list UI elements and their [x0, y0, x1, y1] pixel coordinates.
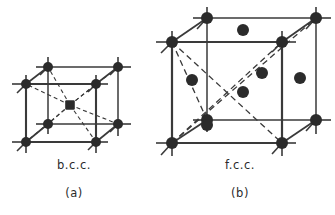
panel-label-a: (a) — [0, 186, 148, 200]
bcc-atom-corner — [43, 119, 53, 129]
bcc-atom-corner — [113, 62, 123, 72]
bcc-atom-corner — [91, 137, 101, 147]
fcc-atom-face-centre — [237, 24, 249, 36]
panel-label-b: (b) — [160, 186, 320, 200]
bcc-atom-corner — [91, 79, 101, 89]
bcc-atom-corner — [113, 119, 123, 129]
fcc-atom-corner — [276, 36, 288, 48]
fcc-atom-corner — [166, 137, 178, 149]
fcc-atom-corner — [310, 114, 322, 126]
fcc-atom-face-centre — [186, 74, 198, 86]
bcc-structure-label: b.c.c. — [0, 158, 148, 172]
fcc-atom-face-centre — [256, 67, 268, 79]
fcc-atom-face-centre — [201, 119, 213, 131]
figure-background — [0, 0, 335, 215]
fcc-atom-corner — [166, 36, 178, 48]
fcc-atom-corner — [310, 12, 322, 24]
fcc-atom-face-centre — [294, 72, 306, 84]
bcc-atom-corner — [43, 62, 53, 72]
crystal-structure-figure — [0, 0, 335, 215]
fcc-atom-corner — [276, 137, 288, 149]
fcc-structure-label: f.c.c. — [160, 158, 320, 172]
fcc-atom-corner — [201, 12, 213, 24]
bcc-atom-corner — [21, 79, 31, 89]
fcc-atom-face-centre — [237, 86, 249, 98]
bcc-atom-corner — [21, 137, 31, 147]
bcc-atom-body-centre — [65, 100, 75, 110]
